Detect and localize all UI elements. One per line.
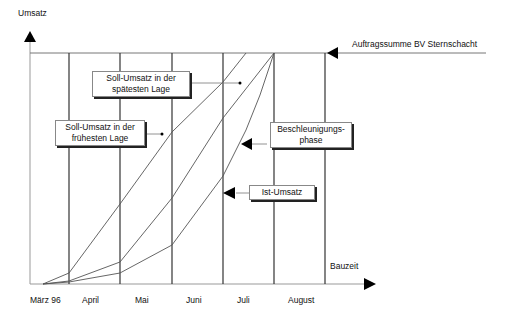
annotation-latest-line2: spätesten Lage xyxy=(95,84,187,95)
y-axis-label: Umsatz xyxy=(18,8,47,18)
annotation-latest: Soll-Umsatz in der spätesten Lage xyxy=(92,71,190,97)
x-axis-arrow-icon xyxy=(364,278,376,290)
marker-latest xyxy=(239,82,242,85)
month-label: August xyxy=(288,295,314,305)
month-label: April xyxy=(82,295,99,305)
annotation-acceleration-line1: Beschleunigungs- xyxy=(273,124,349,135)
ist-arrow-icon xyxy=(223,187,235,199)
annotation-earliest-line2: frühesten Lage xyxy=(58,133,142,144)
annotation-actual: Ist-Umsatz xyxy=(249,185,315,200)
annotation-acceleration-line2: phase xyxy=(273,135,349,146)
x-axis-label: Bauzeit xyxy=(330,261,358,271)
month-label: Juli xyxy=(237,295,250,305)
contract-sum-label: Auftragssumme BV Sternschacht xyxy=(352,39,477,49)
contract-sum-arrow-icon xyxy=(327,47,338,59)
annotation-earliest-line1: Soll-Umsatz in der xyxy=(58,122,142,133)
beschleunigung-arrow-icon xyxy=(241,138,252,150)
month-label: März 96 xyxy=(30,295,61,305)
annotation-latest-line1: Soll-Umsatz in der xyxy=(95,73,187,84)
month-label: Juni xyxy=(186,295,202,305)
marker-earliest xyxy=(161,133,164,136)
month-label: Mai xyxy=(135,295,149,305)
annotation-earliest: Soll-Umsatz in der frühesten Lage xyxy=(55,120,145,146)
annotation-acceleration: Beschleunigungs- phase xyxy=(270,122,352,148)
y-axis-arrow-icon xyxy=(24,31,36,42)
